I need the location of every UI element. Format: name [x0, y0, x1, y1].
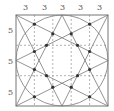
intersection-dots	[33, 23, 91, 99]
dashed-grid	[16, 15, 108, 106]
outer-square	[16, 15, 108, 106]
geometry-figure	[0, 0, 114, 111]
inscribed-circle	[16, 15, 108, 106]
star-lines	[16, 15, 108, 106]
